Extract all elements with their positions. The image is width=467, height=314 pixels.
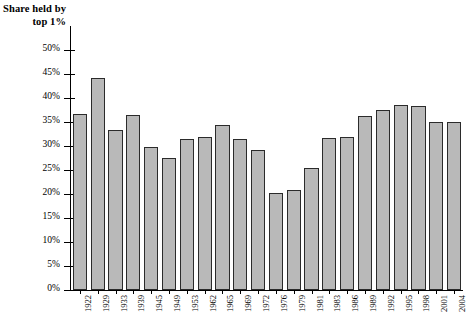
x-axis-tick-label: 1922 [84, 295, 93, 312]
bar [411, 106, 425, 290]
x-axis-tick-label: 1965 [226, 295, 235, 312]
x-axis-tick-label: 1945 [155, 295, 164, 312]
bar [358, 116, 372, 290]
x-axis-tick-mark [205, 291, 206, 294]
y-axis-tick-label: 45% [43, 67, 60, 77]
y-axis-tick-label: 0% [47, 283, 60, 293]
x-axis-labels: 1922192919331939194519491953196219651969… [71, 291, 463, 314]
x-axis-tick-label: 1998 [422, 295, 431, 312]
x-axis-tick-mark [347, 291, 348, 294]
x-axis-tick-label: 1979 [298, 295, 307, 312]
x-axis-tick-mark [418, 291, 419, 294]
bar [376, 110, 390, 290]
bar [215, 125, 229, 290]
x-axis-tick-label: 1972 [262, 295, 271, 312]
bar [162, 158, 176, 290]
x-axis-tick-mark [240, 291, 241, 294]
x-axis-tick-label: 1949 [173, 295, 182, 312]
x-axis-tick-mark [383, 291, 384, 294]
x-axis-tick-label: 1933 [120, 295, 129, 312]
x-axis-tick-label: 1969 [244, 295, 253, 312]
bar [304, 168, 318, 290]
x-axis-tick-mark [312, 291, 313, 294]
x-axis-tick-label: 2004 [458, 295, 467, 312]
bar [233, 139, 247, 290]
bar [340, 137, 354, 290]
y-axis-tick-label: 40% [43, 91, 60, 101]
y-axis-tick-label: 15% [43, 211, 60, 221]
y-axis-tick-label: 5% [47, 259, 60, 269]
x-axis-tick-mark [98, 291, 99, 294]
y-axis-tick-label: 20% [43, 187, 60, 197]
y-axis-tick-label: 10% [43, 235, 60, 245]
x-axis-tick-label: 1939 [137, 295, 146, 312]
bar [322, 138, 336, 290]
x-axis-tick-mark [116, 291, 117, 294]
bar [126, 115, 140, 290]
plot-area [71, 50, 463, 290]
x-axis-tick-mark [80, 291, 81, 294]
x-axis-tick-mark [222, 291, 223, 294]
x-axis-tick-label: 1976 [280, 295, 289, 312]
y-axis-tick-label: 50% [43, 43, 60, 53]
x-axis-tick-label: 2001 [440, 295, 449, 312]
bar [429, 122, 443, 290]
x-axis-tick-mark [187, 291, 188, 294]
bar [108, 130, 122, 290]
x-axis-tick-label: 1992 [387, 295, 396, 312]
x-axis-tick-mark [276, 291, 277, 294]
x-axis-tick-mark [454, 291, 455, 294]
bar [394, 105, 408, 290]
x-axis-tick-label: 1983 [333, 295, 342, 312]
y-axis-tick-label: 35% [43, 115, 60, 125]
x-axis-tick-label: 1962 [209, 295, 218, 312]
bar [91, 78, 105, 290]
x-axis-tick-label: 1953 [191, 295, 200, 312]
y-axis-tick-label: 25% [43, 163, 60, 173]
x-axis-tick-mark [169, 291, 170, 294]
bar [287, 190, 301, 290]
bar [447, 122, 461, 290]
x-axis-tick-label: 1986 [351, 295, 360, 312]
x-axis-tick-label: 1989 [369, 295, 378, 312]
bar [269, 193, 283, 290]
x-axis-tick-mark [401, 291, 402, 294]
x-axis-tick-label: 1981 [316, 295, 325, 312]
bar [251, 150, 265, 290]
bar [180, 139, 194, 290]
bar [144, 147, 158, 290]
x-axis-tick-mark [329, 291, 330, 294]
x-axis-tick-mark [151, 291, 152, 294]
x-axis-tick-label: 1995 [405, 295, 414, 312]
bar-chart: Share held by top 1% 0%5%10%15%20%25%30%… [0, 0, 467, 314]
page-title: Share held by top 1% [0, 3, 66, 28]
bar [73, 114, 87, 290]
x-axis-tick-mark [365, 291, 366, 294]
bar [198, 137, 212, 290]
y-axis-tick-label: 30% [43, 139, 60, 149]
x-axis-tick-mark [258, 291, 259, 294]
x-axis-tick-label: 1929 [102, 295, 111, 312]
x-axis-tick-mark [294, 291, 295, 294]
x-axis-tick-mark [133, 291, 134, 294]
x-axis-tick-mark [436, 291, 437, 294]
